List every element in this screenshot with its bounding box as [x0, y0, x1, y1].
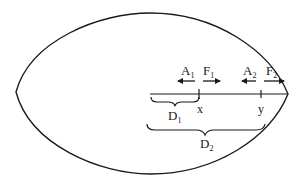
label-a1: A1: [181, 64, 194, 80]
label-d1: D1: [168, 109, 181, 125]
label-f2: F2: [266, 64, 277, 80]
label-d2: D2: [200, 137, 213, 153]
label-a2: A2: [243, 64, 256, 80]
brace-d1: [151, 97, 199, 106]
label-f1: F1: [203, 64, 214, 80]
label-point-x: x: [197, 103, 203, 115]
label-point-y: y: [258, 103, 264, 115]
diagram-canvas: A1 F1 A2 F2 x y D1 D2: [0, 0, 301, 180]
brace-d2: [147, 124, 265, 135]
diagram-graphics: [0, 0, 301, 180]
